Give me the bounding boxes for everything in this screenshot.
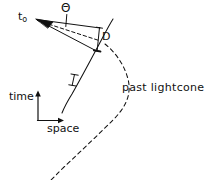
past-lightcone-label: past lightcone — [122, 82, 204, 93]
worldline-event-tick-cap-top — [71, 74, 78, 75]
time-axis-arrowhead — [35, 91, 41, 97]
angle-marker-stem-path — [66, 15, 67, 27]
distance-label: D — [102, 31, 110, 42]
observer-time-label: to — [18, 11, 27, 22]
space-axis-label: space — [47, 123, 79, 134]
spacetime-diagram: to Θ D time space past lightcone — [0, 0, 210, 180]
worldline-event-tick-path — [72, 75, 74, 86]
angle-label: Θ — [61, 2, 70, 14]
distance-bar-path — [97, 28, 99, 51]
observer-time-subscript: o — [22, 15, 27, 24]
time-axis-label: time — [9, 91, 34, 102]
worldline-event-tick-cap-bottom — [69, 85, 76, 86]
